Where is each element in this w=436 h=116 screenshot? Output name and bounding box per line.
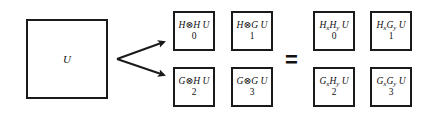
block-gx-hy: GxHy U 2 (313, 67, 355, 107)
block-expression: GxGy U (376, 76, 405, 87)
block-index: 1 (250, 31, 255, 42)
block-index: 2 (192, 87, 197, 98)
block-hh-tensor: H⊗H U 0 (173, 11, 215, 51)
block-index: 1 (389, 31, 394, 42)
block-index: 3 (389, 87, 394, 98)
block-expression: HxHy U (319, 20, 348, 31)
block-index: 0 (192, 31, 197, 42)
block-expression: G⊗G U (237, 76, 268, 87)
block-expression: G⊗H U (179, 76, 210, 87)
block-expression: H⊗G U (237, 20, 268, 31)
block-gh-tensor: G⊗H U 2 (173, 67, 215, 107)
block-index: 0 (332, 31, 337, 42)
equals-sign: = (285, 47, 298, 73)
block-expression: HxGy U (376, 20, 405, 31)
block-hg-tensor: H⊗G U 1 (231, 11, 273, 51)
block-gg-tensor: G⊗G U 3 (231, 67, 273, 107)
block-expression: H⊗H U (179, 20, 210, 31)
block-gx-gy: GxGy U 3 (370, 67, 412, 107)
block-hx-hy: HxHy U 0 (313, 11, 355, 51)
block-hx-gy: HxGy U 1 (370, 11, 412, 51)
block-index: 2 (332, 87, 337, 98)
block-index: 3 (250, 87, 255, 98)
block-expression: GxHy U (319, 76, 348, 87)
